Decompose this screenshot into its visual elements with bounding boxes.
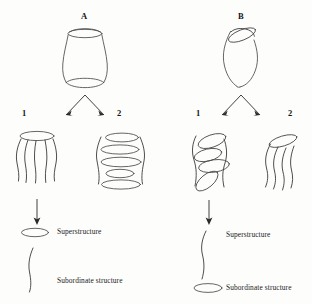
- panel-a-label: A: [81, 11, 87, 21]
- panel-b-legend-subordinate-label: Subordinate structure: [226, 283, 292, 292]
- panel-a-legend-subordinate-label: Subordinate structure: [57, 276, 123, 285]
- panel-b-legend-wavy-marker: [202, 231, 206, 279]
- panel-a-legend-superstructure-label: Superstructure: [57, 227, 102, 236]
- panel-b-parent-shape: [223, 25, 257, 88]
- panel-a-branch-1-number: 1: [22, 108, 26, 118]
- panel-a-branch-2-shape: [96, 133, 144, 189]
- panel-a-legend-wavy-marker: [29, 248, 33, 292]
- panel-a-legend-ellipse-marker: [22, 228, 49, 236]
- panel-a-result-arrow: [34, 199, 41, 225]
- panel-b-branch-1-number: 1: [196, 108, 200, 118]
- panel-b-branch-2-number: 2: [288, 108, 292, 118]
- panel-b-branch-2-shape: [266, 132, 299, 190]
- panel-b-branch-arrows: [222, 95, 260, 116]
- panel-b-legend-ellipse-marker: [194, 284, 222, 293]
- panel-b-legend-superstructure-label: Superstructure: [226, 230, 271, 239]
- diagram-vector-layer: [0, 0, 312, 304]
- panel-a-branch-1-shape: [16, 131, 56, 183]
- panel-a-branch-2-number: 2: [117, 108, 121, 118]
- panel-b-branch-1-shape: [192, 130, 230, 194]
- panel-b-result-arrow: [206, 200, 213, 225]
- figure-canvas: A 1 2 Superstructure Subordinate structu…: [0, 0, 312, 304]
- panel-a-branch-arrows: [66, 95, 104, 116]
- panel-a-parent-shape: [63, 29, 108, 88]
- panel-b-label: B: [238, 11, 244, 21]
